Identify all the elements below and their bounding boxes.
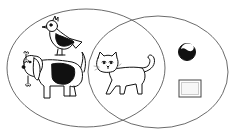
dog-icon	[22, 52, 85, 99]
bird-icon	[42, 16, 82, 55]
venn-diagram	[0, 0, 235, 138]
card-icon	[179, 80, 201, 97]
ball-icon	[179, 44, 196, 61]
cat-icon	[94, 52, 155, 94]
